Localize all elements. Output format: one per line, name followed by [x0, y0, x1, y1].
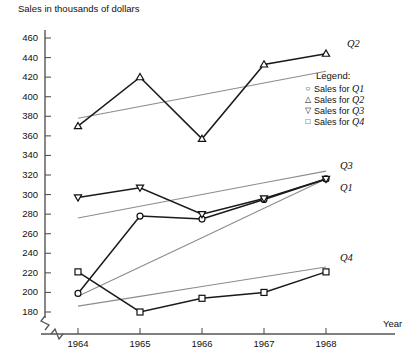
y-tick-label: 300 [8, 189, 38, 200]
chart-figure: Sales in thousands of dollars Year 18020… [0, 0, 418, 358]
legend-item-series: Q2 [352, 94, 364, 105]
y-tick-label: 360 [8, 130, 38, 141]
y-tick-label: 340 [8, 149, 38, 160]
y-tick-label: 440 [8, 52, 38, 63]
y-tick-label: 200 [8, 286, 38, 297]
legend-item-q3[interactable]: ▽Sales for Q3 [302, 105, 414, 116]
series-label-q4: Q4 [340, 252, 353, 263]
legend-item-q2[interactable]: △Sales for Q2 [302, 94, 414, 105]
legend-item-q1[interactable]: ○Sales for Q1 [302, 83, 414, 94]
x-tick-label: 1966 [182, 338, 222, 349]
plot-area [0, 0, 418, 358]
series-label-q3: Q3 [340, 160, 353, 171]
legend-item-series: Q3 [352, 105, 364, 116]
y-tick-label: 240 [8, 247, 38, 258]
y-tick-label: 220 [8, 267, 38, 278]
legend-item-series: Q1 [352, 83, 364, 94]
y-tick-label: 320 [8, 169, 38, 180]
legend-item-label: Sales for Q4 [314, 116, 364, 127]
triangle-up-icon: △ [302, 94, 314, 105]
y-tick-label: 460 [8, 32, 38, 43]
x-tick-label: 1965 [120, 338, 160, 349]
x-tick-label: 1968 [306, 338, 346, 349]
circle-icon: ○ [302, 83, 314, 94]
y-tick-label: 380 [8, 110, 38, 121]
legend-item-q4[interactable]: □Sales for Q4 [302, 116, 414, 127]
x-tick-label: 1967 [244, 338, 284, 349]
y-tick-label: 260 [8, 228, 38, 239]
y-tick-label: 420 [8, 71, 38, 82]
series-label-q1: Q1 [340, 182, 353, 193]
triangle-down-icon: ▽ [302, 105, 314, 116]
series-label-q2: Q2 [347, 38, 360, 49]
legend-item-label: Sales for Q3 [314, 105, 364, 116]
y-tick-label: 280 [8, 208, 38, 219]
square-icon: □ [302, 116, 314, 127]
legend: Legend: ○Sales for Q1△Sales for Q2▽Sales… [302, 70, 414, 127]
x-tick-label: 1964 [58, 338, 98, 349]
y-tick-label: 400 [8, 91, 38, 102]
y-tick-label: 180 [8, 306, 38, 317]
legend-item-label: Sales for Q2 [314, 94, 364, 105]
legend-item-label: Sales for Q1 [314, 83, 364, 94]
legend-rows: ○Sales for Q1△Sales for Q2▽Sales for Q3□… [302, 83, 414, 127]
legend-title: Legend: [316, 70, 414, 81]
legend-item-series: Q4 [352, 116, 364, 127]
